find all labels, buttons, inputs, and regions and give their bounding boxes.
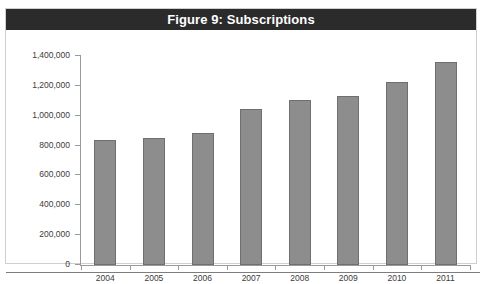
x-axis-tick-label: 2008	[276, 273, 324, 284]
x-axis-tick-label: 2004	[81, 273, 129, 284]
y-axis-tick-label: 1,000,000	[6, 110, 70, 121]
x-axis-tick-label: 2005	[130, 273, 178, 284]
x-axis-tick-label: 2009	[324, 273, 372, 284]
y-axis-tick-label: 600,000	[6, 169, 70, 180]
x-axis-tick-mark	[178, 265, 179, 270]
x-axis-tick-mark	[324, 265, 325, 270]
x-axis-tick-label: 2010	[373, 273, 421, 284]
y-axis-tick-label: 1,400,000	[6, 50, 70, 61]
x-axis-tick-mark	[373, 265, 374, 270]
bar-2007	[240, 109, 262, 265]
y-axis-tick-label: 800,000	[6, 140, 70, 151]
y-axis-tick-mark	[75, 145, 81, 146]
bar-2011	[435, 62, 457, 265]
y-axis-tick-label: 1,200,000	[6, 80, 70, 91]
y-axis-tick-label: 0	[6, 259, 70, 270]
x-axis-tick-label: 2006	[179, 273, 227, 284]
cropped-caption-text: in 2011:	[6, 0, 37, 2]
y-axis-tick-label: 400,000	[6, 199, 70, 210]
x-axis-tick-mark	[470, 265, 471, 270]
x-axis-tick-mark	[227, 265, 228, 270]
figure-container: Figure 9: Subscriptions 0200,000400,0006…	[5, 8, 477, 264]
y-axis-tick-mark	[75, 85, 81, 86]
bottom-divider	[6, 272, 480, 273]
y-axis-tick-mark	[75, 55, 81, 56]
bar-2005	[143, 138, 165, 265]
bar-2004	[94, 140, 116, 265]
y-axis-tick-mark	[75, 115, 81, 116]
y-axis-tick-label: 200,000	[6, 229, 70, 240]
x-axis-tick-label: 2011	[422, 273, 470, 284]
y-axis-tick-mark	[75, 204, 81, 205]
bar-2009	[337, 96, 359, 265]
chart-plot-area: 0200,000400,000600,000800,0001,000,0001,…	[6, 30, 476, 263]
x-axis-tick-mark	[275, 265, 276, 270]
x-axis-tick-label: 2007	[227, 273, 275, 284]
x-axis-tick-mark	[130, 265, 131, 270]
y-axis-tick-mark	[75, 234, 81, 235]
bar-2006	[192, 133, 214, 265]
y-axis-tick-mark	[75, 174, 81, 175]
bar-2008	[289, 100, 311, 265]
x-axis-tick-mark	[81, 265, 82, 270]
figure-title: Figure 9: Subscriptions	[6, 9, 476, 30]
bar-2010	[386, 82, 408, 265]
x-axis-tick-mark	[421, 265, 422, 270]
